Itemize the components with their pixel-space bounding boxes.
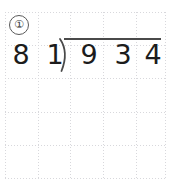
dividend-digit-1: 9 bbox=[76, 38, 102, 72]
math-worksheet-canvas: ① 8 1 9 3 4 bbox=[0, 0, 170, 182]
grid-line-horizontal bbox=[5, 112, 166, 113]
divisor-digit-tens: 8 bbox=[8, 38, 34, 72]
division-bracket-icon bbox=[58, 38, 72, 72]
long-division-expression: 8 1 9 3 4 bbox=[0, 38, 170, 74]
grid-line-horizontal bbox=[5, 178, 166, 179]
grid-line-horizontal bbox=[5, 78, 166, 79]
dividend-digit-3: 4 bbox=[140, 38, 166, 72]
grid-line-horizontal bbox=[5, 145, 166, 146]
problem-number-badge: ① bbox=[9, 15, 29, 35]
grid-line-horizontal bbox=[5, 12, 166, 13]
dividend-digit-2: 3 bbox=[110, 38, 136, 72]
